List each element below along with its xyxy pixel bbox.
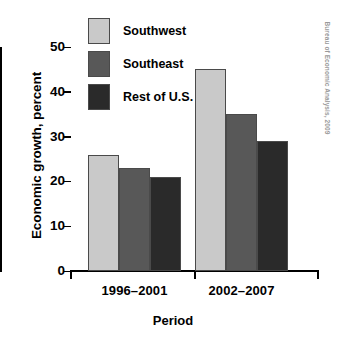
y-axis-tick-label: 50 [19,40,65,54]
bar [226,114,257,271]
y-axis-tick-label: 40 [19,85,65,99]
y-axis-tick-label: 30 [19,130,65,144]
bar [150,177,181,271]
x-axis-end-tick [317,272,319,279]
legend-item-southwest: Southwest [88,14,193,47]
x-axis-start-tick [70,272,72,279]
legend-label-southwest: Southwest [123,24,186,38]
legend-swatch-southeast [88,51,110,77]
y-axis-tick-label: 0 [19,264,65,278]
legend-swatch-southwest [88,18,110,44]
y-axis-tick-label: 20 [19,174,65,188]
bar-chart-figure: Economic growth, percent 01020304050 199… [0,0,346,337]
x-axis-category-label: 1996–2001 [75,283,195,298]
x-axis-category-label: 2002–2007 [182,283,302,298]
y-axis-title: Economic growth, percent [29,41,44,271]
bar [88,155,119,271]
legend-item-rest-of-us: Rest of U.S. [88,80,193,113]
x-axis-group-separator-tick [194,272,196,279]
legend-label-southeast: Southeast [123,57,183,71]
y-axis-tick-label: 10 [19,219,65,233]
legend-label-rest-of-us: Rest of U.S. [123,90,193,104]
y-axis-line [0,47,2,272]
legend-swatch-rest-of-us [88,84,110,110]
x-axis-title: Period [0,313,346,328]
bar [257,141,288,271]
bar [195,69,226,271]
legend-item-southeast: Southeast [88,47,193,80]
source-credit-note: Bureau of Economic Analysis, 2009 [324,22,331,182]
bar [119,168,150,271]
legend: Southwest Southeast Rest of U.S. [88,14,193,113]
